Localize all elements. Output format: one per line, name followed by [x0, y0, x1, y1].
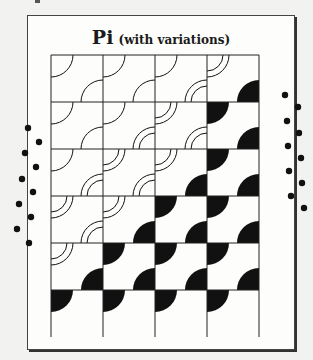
binding-hole [301, 205, 307, 211]
binding-hole [14, 226, 20, 232]
filled-arc-tile [133, 221, 155, 243]
filled-arc-tile [207, 290, 229, 312]
page-card: Pi (with variations) [27, 15, 295, 350]
filled-arc-tile [133, 268, 155, 290]
filled-arc-tile [237, 221, 259, 243]
binding-hole [299, 180, 305, 186]
filled-arc-tile [81, 268, 103, 290]
filled-arc-tile [51, 290, 73, 312]
filled-arc-tile [185, 174, 207, 196]
binding-hole [296, 130, 302, 136]
title-sub: (with variations) [118, 33, 230, 47]
filled-arc-tile [237, 268, 259, 290]
filled-arc-tile [185, 221, 207, 243]
filled-arc-tile [207, 149, 229, 171]
filled-arc-tile [155, 196, 177, 218]
binding-hole [295, 104, 301, 110]
filled-arc-tile [237, 174, 259, 196]
filled-arc-tile [207, 196, 229, 218]
filled-arc-tile [207, 102, 229, 124]
filled-arc-tile [155, 243, 177, 265]
filled-arc-tile [237, 80, 259, 102]
page-title: Pi (with variations) [28, 26, 294, 48]
filled-arc-tile [185, 268, 207, 290]
filled-arc-tile [237, 127, 259, 149]
title-main: Pi [92, 26, 114, 48]
page-edge-mark [35, 0, 40, 3]
binding-hole [298, 155, 304, 161]
filled-arc-tile [155, 290, 177, 312]
binding-hole [16, 201, 22, 207]
filled-arc-tile [103, 290, 125, 312]
filled-arc-tile [207, 243, 229, 265]
tile-grid [49, 53, 261, 343]
binding-hole [19, 176, 25, 182]
filled-arc-tile [103, 243, 125, 265]
